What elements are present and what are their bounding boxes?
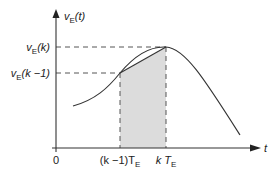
y-axis-arrow-icon (53, 9, 60, 18)
y-axis-label: vE(t) (64, 10, 86, 25)
x-axis-label: t (264, 142, 268, 154)
tick-prev-label: (k −1)TE (100, 154, 141, 169)
sampling-diagram: vE(t) vE(k) vE(k −1) 0 (k −1)TE k TE t (0, 0, 274, 178)
level-high-label: vE(k) (26, 41, 50, 56)
shaded-integral-area (120, 47, 166, 148)
level-low-label: vE(k −1) (11, 67, 51, 82)
origin-label: 0 (53, 154, 59, 166)
x-axis-arrow-icon (250, 145, 261, 152)
tick-curr-label: k TE (156, 154, 177, 169)
